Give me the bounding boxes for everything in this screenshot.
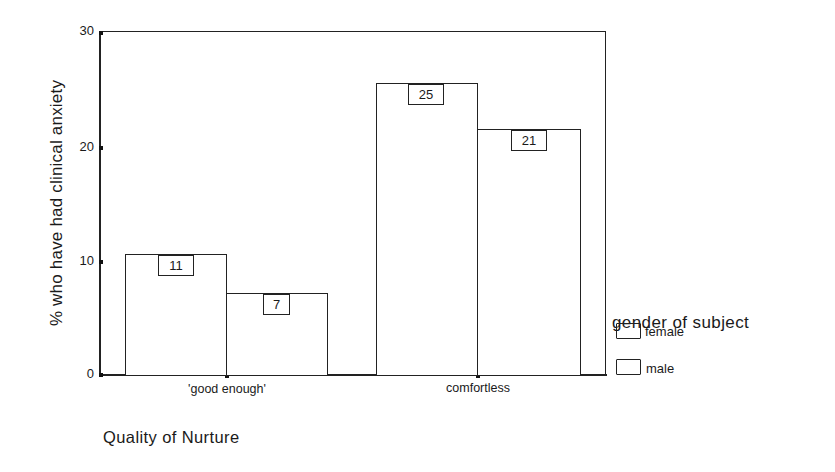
value-label-male-good-enough: 7 xyxy=(263,294,290,315)
legend-label-male: male xyxy=(646,361,674,376)
y-tick-label-10: 10 xyxy=(64,253,94,268)
x-tick-label-comfortless: comfortless xyxy=(398,381,558,395)
legend-swatch-male xyxy=(616,359,641,375)
y-tick-10 xyxy=(99,260,103,264)
y-axis-label: % who have had clinical anxiety xyxy=(47,80,67,326)
value-label-male-comfortless: 21 xyxy=(511,130,547,151)
y-tick-0 xyxy=(99,373,103,377)
y-tick-20 xyxy=(99,146,103,150)
y-axis-line xyxy=(99,31,101,376)
legend-label-female: female xyxy=(645,324,684,339)
y-tick-label-30: 30 xyxy=(64,23,94,38)
x-tick-label-good-enough: 'good enough' xyxy=(147,382,307,396)
bar-female-comfortless xyxy=(376,83,478,376)
y-tick-label-0: 0 xyxy=(64,366,94,381)
legend-swatch-female xyxy=(616,323,641,339)
y-tick-label-20: 20 xyxy=(64,139,94,154)
value-label-female-good-enough: 11 xyxy=(158,255,194,276)
y-tick-30 xyxy=(99,31,103,35)
x-axis-label: Quality of Nurture xyxy=(103,428,240,447)
bar-male-comfortless xyxy=(477,129,581,376)
value-label-female-comfortless: 25 xyxy=(408,84,444,105)
